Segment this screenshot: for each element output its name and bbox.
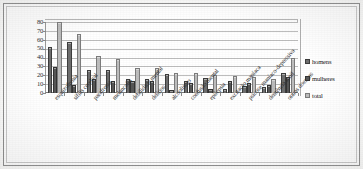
bar-group — [67, 22, 81, 93]
bar-total — [233, 76, 237, 93]
x-axis-tick-mark — [64, 93, 65, 96]
bar-mulheres — [92, 79, 96, 93]
x-axis-tick-mark — [240, 93, 241, 96]
y-axis-tick-label: 20 — [13, 72, 43, 79]
y-axis: 01020304050607080 — [10, 22, 43, 93]
bar-mulheres — [130, 81, 134, 93]
x-axis-tick-mark — [142, 93, 143, 96]
bar-total — [155, 68, 159, 93]
bar-total — [252, 77, 256, 93]
y-axis-tick-label: 40 — [13, 54, 43, 61]
legend-swatch-icon — [305, 76, 310, 81]
bar-total — [77, 34, 81, 93]
legend-item-total[interactable]: total — [305, 91, 361, 99]
bar-total — [213, 75, 217, 93]
bar-homens — [184, 81, 188, 93]
bar-group — [223, 22, 237, 93]
bar-total — [135, 68, 139, 93]
bar-group — [145, 22, 159, 93]
y-axis-tick-label: 70 — [13, 28, 43, 35]
x-axis-tick-mark — [279, 93, 280, 96]
bar-group — [165, 22, 179, 93]
bar-mulheres — [267, 85, 271, 93]
bar-total — [291, 58, 295, 93]
legend-item-label: total — [312, 92, 323, 99]
legend-item-label: homens — [312, 58, 331, 65]
bar-total — [96, 56, 100, 93]
bar-homens — [262, 87, 266, 93]
bar-group — [87, 22, 101, 93]
y-axis-tick-label: 60 — [13, 37, 43, 44]
bar-homens — [106, 70, 110, 93]
y-axis-tick-label: 80 — [13, 19, 43, 26]
bar-group — [262, 22, 276, 93]
legend-item-homens[interactable]: homens — [305, 57, 361, 65]
bar-group — [48, 22, 62, 93]
bar-group — [184, 22, 198, 93]
bar-total — [194, 73, 198, 93]
y-axis-tick-label: 30 — [13, 63, 43, 70]
y-axis-tick-label: 10 — [13, 81, 43, 88]
bar-homens — [87, 70, 91, 93]
bar-mulheres — [53, 67, 57, 93]
bar-mulheres — [111, 81, 115, 93]
x-axis-tick-mark — [103, 93, 104, 96]
bar-homens — [67, 42, 71, 93]
bar-group — [126, 22, 140, 93]
bar-homens — [145, 79, 149, 93]
bar-homens — [223, 89, 227, 93]
bar-group — [106, 22, 120, 93]
x-axis-tick-mark — [162, 93, 163, 96]
y-axis-tick-label: 50 — [13, 45, 43, 52]
bar-mulheres — [189, 83, 193, 93]
bar-mulheres — [247, 83, 251, 93]
x-axis-tick-mark — [201, 93, 202, 96]
bar-mulheres — [228, 81, 232, 93]
legend-swatch-icon — [305, 93, 310, 98]
bar-chart: 01020304050607080 esquizofreniasífilis c… — [8, 8, 355, 161]
x-axis-tick-mark — [220, 93, 221, 96]
bar-group — [242, 22, 256, 93]
bar-homens — [281, 73, 285, 93]
bar-total — [271, 79, 275, 93]
bar-total — [174, 73, 178, 93]
bar-homens — [126, 79, 130, 93]
bars-layer — [45, 22, 298, 93]
y-axis-tick-mark — [43, 93, 46, 94]
bar-group — [281, 22, 295, 93]
bar-mulheres — [150, 81, 154, 93]
legend-item-mulheres[interactable]: mulheres — [305, 74, 361, 82]
y-axis-tick-label: 0 — [13, 90, 43, 97]
bar-homens — [48, 47, 52, 93]
x-axis-tick-mark — [259, 93, 260, 96]
x-axis-tick-mark — [181, 93, 182, 96]
bar-mulheres — [169, 90, 173, 93]
bar-mulheres — [208, 89, 212, 93]
bar-mulheres — [72, 85, 76, 93]
bar-total — [116, 59, 120, 93]
legend-item-label: mulheres — [312, 75, 335, 82]
chart-legend: homensmulherestotal — [305, 57, 361, 108]
bar-total — [57, 22, 61, 93]
bar-homens — [165, 74, 169, 93]
legend-swatch-icon — [305, 59, 310, 64]
scanned-page: 01020304050607080 esquizofreniasífilis c… — [0, 0, 363, 169]
bar-group — [203, 22, 217, 93]
bar-mulheres — [286, 77, 290, 93]
x-axis-tick-mark — [84, 93, 85, 96]
bar-homens — [203, 78, 207, 93]
bar-homens — [242, 86, 246, 93]
x-axis-tick-mark — [123, 93, 124, 96]
